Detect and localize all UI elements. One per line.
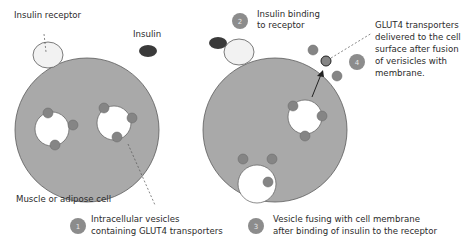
- step-2-label-line2: to receptor: [257, 20, 305, 30]
- glut4-transporter-icon: [112, 132, 122, 142]
- insulin-receptor-icon: [224, 39, 254, 65]
- svg-text:1: 1: [76, 223, 80, 231]
- bound-insulin-icon: [209, 37, 227, 49]
- glut4-transporter-icon: [43, 108, 53, 118]
- step-3-label-line1: Vesicle fusing with cell membrane: [273, 214, 420, 224]
- insulin-receptor-icon: [33, 42, 63, 68]
- step-2-label-line1: Insulin binding: [257, 9, 320, 19]
- svg-text:3: 3: [254, 223, 258, 231]
- step-3-label-line2: after binding of insulin to the receptor: [273, 226, 437, 236]
- left-cell: [15, 34, 159, 205]
- glut4-transporter-icon: [68, 120, 78, 130]
- step-4-label-line3: surface after fusion: [375, 44, 459, 54]
- glut4-transporter-icon: [127, 113, 137, 123]
- glut4-transporter-icon: [332, 71, 342, 81]
- step-4-label-line5: membrane.: [375, 68, 425, 78]
- step-1-label-line1: Intracellular vesicles: [91, 214, 180, 224]
- glut4-transporter-icon: [321, 56, 331, 66]
- glut4-insulin-diagram: Insulin receptor Insulin Muscle or adipo…: [0, 0, 471, 251]
- step-4-label-line2: delivered to the cell: [375, 32, 461, 42]
- insulin-molecule-icon: [139, 45, 157, 57]
- step-4-label-line4: of verisicles with: [375, 56, 447, 66]
- svg-text:2: 2: [238, 18, 242, 26]
- glut4-transporter-icon: [50, 140, 60, 150]
- right-cell: [203, 33, 372, 203]
- svg-text:4: 4: [355, 59, 360, 67]
- step-1-label-line2: containing GLUT4 transporters: [91, 226, 223, 236]
- transporter-leader-line: [331, 33, 372, 58]
- cell-type-label: Muscle or adipose cell: [16, 194, 111, 204]
- step-4-label-line1: GLUT4 transporters: [375, 20, 459, 30]
- insulin-receptor-label: Insulin receptor: [14, 10, 82, 20]
- glut4-transporter-icon: [99, 103, 109, 113]
- glut4-transporter-icon: [308, 45, 318, 55]
- insulin-label: Insulin: [133, 29, 161, 39]
